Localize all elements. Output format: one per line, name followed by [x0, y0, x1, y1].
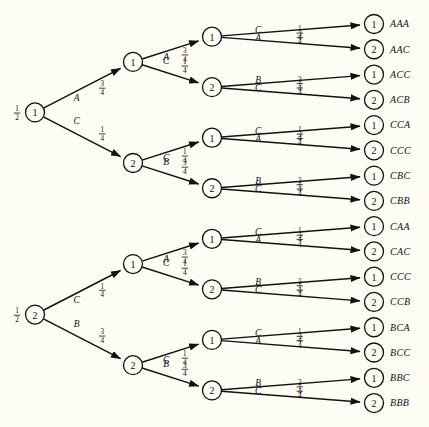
edge-root1-to-l1-2 [43, 117, 120, 157]
edge-leaf-8-fraction: 34 [297, 177, 303, 194]
edge-l2-6-fraction-numerator: 1 [183, 260, 187, 268]
edge-l1-4-fraction: 34 [99, 328, 105, 345]
edge-l1-4-to-l2-8 [142, 368, 199, 386]
edge-l1-4-fraction-numerator: 3 [100, 328, 104, 336]
edge-leaf-4-letter: B [255, 75, 261, 85]
leaf-node-14-label: 2 [372, 347, 377, 358]
leaf-node-13-label: 1 [372, 322, 377, 333]
edge-leaf-8-fraction-denominator: 4 [298, 186, 302, 194]
edge-l2-6-to-leaf-11 [221, 278, 360, 289]
root-node-1-label: 1 [33, 107, 38, 118]
leaf-node-7: 1 [365, 166, 384, 185]
edge-l1-1-to-l2-1 [142, 41, 199, 59]
leaf-node-3-label: 1 [372, 69, 377, 80]
edge-l2-5-to-leaf-9 [221, 227, 360, 238]
leaf-word-5: CCA [390, 119, 411, 130]
level2-node-4: 2 [203, 179, 222, 198]
edge-leaf-4-fraction: 34 [297, 76, 303, 93]
root-probability-2-denominator: 2 [15, 316, 19, 324]
edge-l2-3-to-leaf-5 [221, 126, 360, 137]
edge-l2-2-fraction-denominator: 4 [183, 67, 187, 75]
level2-node-3-label: 1 [210, 133, 215, 144]
edge-l2-4-fraction-numerator: 3 [183, 159, 187, 167]
leaf-word-1: AAA [389, 18, 410, 29]
level2-node-5-label: 1 [210, 234, 215, 245]
leaf-word-layer: AAAAACACCACBCCACCCCBCCBBCAACACCCCCCBBCAB… [389, 18, 411, 408]
edge-l1-3-fraction-numerator: 1 [100, 283, 104, 291]
edge-l2-4-to-leaf-8 [221, 189, 360, 200]
edge-l1-4-fraction-denominator: 4 [100, 337, 104, 345]
leaf-word-13: BCA [390, 322, 410, 333]
edge-l1-2-to-l2-4 [142, 166, 199, 184]
edge-l2-2-fraction-numerator: 1 [183, 58, 187, 66]
leaf-node-15-label: 1 [372, 373, 377, 384]
leaf-node-2-label: 2 [372, 44, 377, 55]
edge-root1-to-l1-1 [43, 68, 120, 108]
leaf-node-3: 1 [365, 65, 384, 84]
edge-l2-6-fraction-denominator: 4 [183, 269, 187, 277]
edge-l2-2-to-leaf-4 [221, 88, 360, 99]
edge-l2-1-fraction-numerator: 3 [183, 47, 187, 55]
edge-l2-3-to-leaf-6 [221, 138, 360, 149]
root-probability-2: 12 [14, 307, 20, 324]
tree-canvas: 1212A34C14C14B34A34C14C14B34A34C14C14B34… [0, 0, 429, 427]
edge-l2-3-fraction-numerator: 1 [183, 148, 187, 156]
root-node-1: 1 [26, 103, 45, 122]
leaf-word-15: BBC [390, 372, 410, 383]
edge-l1-3-fraction-denominator: 4 [100, 291, 104, 299]
edge-l2-2-letter: C [163, 56, 170, 66]
edge-leaf-12-letter: B [255, 277, 261, 287]
edge-leaf-16-fraction-numerator: 3 [298, 379, 302, 387]
root-node-2-label: 2 [33, 310, 38, 321]
root-probability-2-numerator: 1 [15, 307, 19, 315]
leaf-node-11-label: 1 [372, 272, 377, 283]
edge-l2-7-fraction-numerator: 1 [183, 350, 187, 358]
edge-l1-1-fraction: 34 [99, 80, 105, 97]
edge-l2-8-fraction: 34 [182, 362, 188, 379]
edge-l1-4-to-l2-7 [142, 344, 199, 362]
edge-l1-2-fraction-denominator: 4 [100, 135, 104, 143]
edge-l2-8-to-leaf-16 [221, 391, 360, 402]
edge-leaf-6-fraction: 14 [297, 126, 303, 143]
edge-leaf-14-letter: C [255, 328, 262, 338]
leaf-word-4: ACB [389, 94, 410, 105]
leaf-node-9-label: 1 [372, 221, 377, 232]
leaf-word-3: ACC [389, 69, 410, 80]
root-probability-1-denominator: 2 [15, 114, 19, 122]
level2-node-4-label: 2 [210, 183, 215, 194]
level2-node-7-label: 1 [210, 335, 215, 346]
leaf-node-4-label: 2 [372, 95, 377, 106]
level1-node-3-label: 1 [131, 259, 136, 270]
level1-node-2-label: 2 [131, 158, 136, 169]
edge-leaf-2-fraction-numerator: 1 [298, 25, 302, 33]
edge-l1-2-fraction: 14 [99, 126, 105, 143]
leaf-node-7-label: 1 [372, 171, 377, 182]
edge-l2-2-fraction: 14 [182, 58, 188, 75]
level1-node-1: 1 [124, 52, 143, 71]
edge-l1-2-letter: C [73, 116, 80, 126]
edge-l2-4-letter: B [163, 157, 169, 167]
root-probability-1: 12 [14, 105, 20, 122]
root-probability-1-numerator: 1 [15, 105, 19, 113]
level2-node-2-label: 2 [210, 82, 215, 93]
leaf-node-2: 2 [365, 40, 384, 59]
leaf-word-7: CBC [390, 170, 410, 181]
edge-root2-to-l1-3 [43, 270, 120, 310]
level2-node-8: 2 [203, 381, 222, 400]
edge-l1-1-letter: A [73, 93, 80, 103]
leaf-word-10: CAC [390, 246, 410, 257]
edge-l1-4-letter: B [74, 319, 80, 329]
level2-node-1: 1 [203, 27, 222, 46]
leaf-node-1-label: 1 [372, 19, 377, 30]
leaf-word-6: CCC [390, 145, 411, 156]
level2-node-5: 1 [203, 229, 222, 248]
level2-node-6-label: 2 [210, 284, 215, 295]
leaf-node-6: 2 [365, 141, 384, 160]
leaf-node-10: 2 [365, 242, 384, 261]
level2-node-8-label: 2 [210, 385, 215, 396]
edge-l1-1-fraction-denominator: 4 [100, 89, 104, 97]
edge-l2-4-fraction-denominator: 4 [183, 168, 187, 176]
edge-l2-4-to-leaf-7 [221, 177, 360, 188]
edge-leaf-2-letter: C [255, 25, 262, 35]
edge-l2-8-fraction-numerator: 3 [183, 362, 187, 370]
